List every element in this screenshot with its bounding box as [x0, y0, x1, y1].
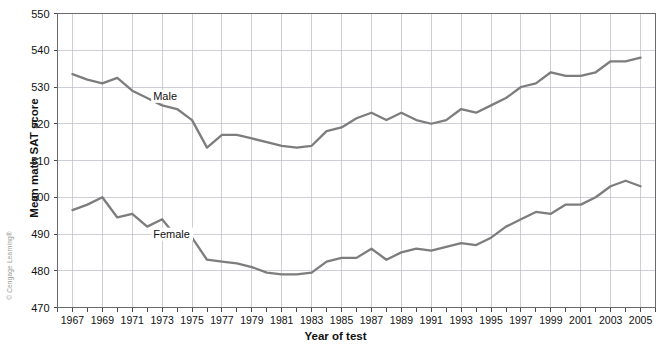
- y-axis-tick-labels: 470480490500510520530540550: [31, 8, 49, 314]
- x-tick-label: 1981: [270, 314, 294, 326]
- x-tick-label: 1999: [539, 314, 563, 326]
- y-tick-label: 540: [31, 44, 49, 56]
- x-axis-tickmarks: [58, 308, 656, 312]
- y-tick-label: 500: [31, 191, 49, 203]
- x-tick-label: 1991: [420, 314, 444, 326]
- y-tick-label: 520: [31, 118, 49, 130]
- series-label-male: Male: [153, 90, 177, 102]
- horizontal-gridlines: [58, 50, 656, 271]
- x-axis-tick-labels: 1967196919711973197519771979198119831985…: [61, 314, 653, 326]
- y-axis-tickmarks: [54, 14, 58, 308]
- x-tick-label: 2005: [629, 314, 653, 326]
- y-tick-label: 490: [31, 228, 49, 240]
- chart-plot-svg: 470480490500510520530540550 196719691971…: [0, 0, 671, 351]
- series-label-female: Female: [153, 228, 190, 240]
- x-tick-label: 1975: [180, 314, 204, 326]
- y-tick-label: 470: [31, 302, 49, 314]
- x-tick-label: 1983: [300, 314, 324, 326]
- x-tick-label: 1979: [240, 314, 264, 326]
- sat-score-line-chart-figure: © Cengage Learning® Mean math SAT score …: [0, 0, 671, 351]
- y-tick-label: 480: [31, 265, 49, 277]
- x-tick-label: 2003: [599, 314, 623, 326]
- y-tick-label: 530: [31, 81, 49, 93]
- x-tick-label: 1997: [509, 314, 533, 326]
- x-tick-label: 1985: [330, 314, 354, 326]
- y-tick-label: 550: [31, 8, 49, 20]
- x-tick-label: 1967: [61, 314, 85, 326]
- x-tick-label: 1995: [479, 314, 503, 326]
- x-tick-label: 2001: [569, 314, 593, 326]
- x-tick-label: 1989: [390, 314, 414, 326]
- x-tick-label: 1993: [449, 314, 473, 326]
- x-tick-label: 1973: [150, 314, 174, 326]
- x-tick-label: 1977: [210, 314, 234, 326]
- y-tick-label: 510: [31, 155, 49, 167]
- x-tick-label: 1969: [91, 314, 115, 326]
- x-tick-label: 1987: [360, 314, 384, 326]
- data-series-inline-labels: MaleFemale: [151, 90, 193, 241]
- x-tick-label: 1971: [121, 314, 145, 326]
